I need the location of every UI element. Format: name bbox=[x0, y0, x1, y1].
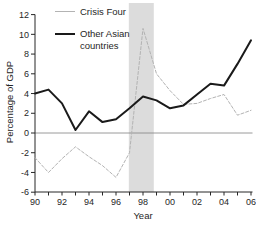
crisis-four-line-sample-icon bbox=[55, 11, 75, 12]
legend: Crisis Four Other Asian countries bbox=[55, 6, 146, 62]
x-tick-label: 90 bbox=[30, 197, 40, 207]
x-tick-label: 02 bbox=[192, 197, 202, 207]
y-tick-label: 0 bbox=[24, 128, 29, 138]
legend-item-other-asian: Other Asian countries bbox=[55, 28, 146, 52]
x-tick-label: 04 bbox=[219, 197, 229, 207]
x-tick-label: 94 bbox=[84, 197, 94, 207]
gdp-line-chart-figure: -6-4-2024681012909294969800020406 Percen… bbox=[0, 0, 256, 227]
y-tick-label: 8 bbox=[24, 49, 29, 59]
y-axis-label: Percentage of GDP bbox=[4, 61, 15, 143]
x-tick-label: 96 bbox=[111, 197, 121, 207]
y-tick-label: 4 bbox=[24, 89, 29, 99]
legend-label-crisis-four: Crisis Four bbox=[80, 6, 126, 18]
x-tick-label: 00 bbox=[165, 197, 175, 207]
y-tick-label: 2 bbox=[24, 108, 29, 118]
y-tick-label: 12 bbox=[19, 10, 29, 20]
y-tick-label: 6 bbox=[24, 69, 29, 79]
x-tick-label: 92 bbox=[57, 197, 67, 207]
x-tick-label: 98 bbox=[138, 197, 148, 207]
y-tick-label: -2 bbox=[21, 148, 29, 158]
y-tick-label: -6 bbox=[21, 187, 29, 197]
legend-label-other-asian: Other Asian countries bbox=[80, 28, 146, 52]
x-tick-label: 06 bbox=[246, 197, 256, 207]
y-tick-label: 10 bbox=[19, 30, 29, 40]
other-asian-line-sample-icon bbox=[55, 33, 75, 35]
x-axis-label: Year bbox=[133, 210, 152, 221]
y-tick-label: -4 bbox=[21, 168, 29, 178]
legend-item-crisis-four: Crisis Four bbox=[55, 6, 146, 18]
